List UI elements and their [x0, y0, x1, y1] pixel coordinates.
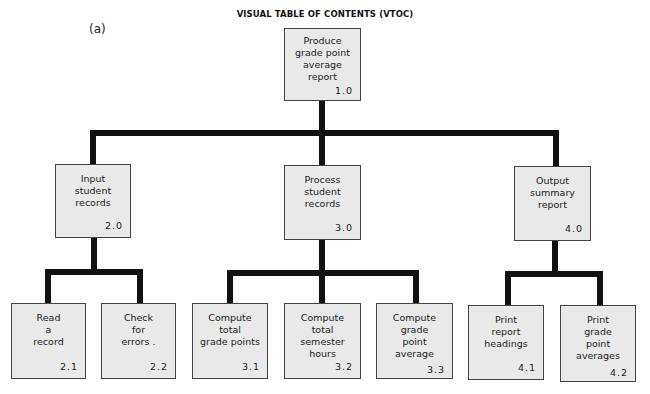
node-label: Print grade point averages — [561, 314, 635, 362]
node-number: 4.0 — [565, 223, 583, 234]
node-label: Output summary report — [515, 175, 590, 211]
node-2-0: Input student records 2.0 — [55, 164, 131, 238]
connector-2-bar — [45, 269, 143, 275]
connector-to-3-0 — [319, 130, 325, 166]
connector-4-bar — [505, 271, 603, 277]
connector-to-2-1 — [45, 269, 51, 304]
connector-to-3-2 — [319, 270, 325, 304]
node-3-2: Compute total semester hours 3.2 — [284, 303, 361, 379]
node-number: 2.1 — [60, 361, 78, 372]
node-label: Print report headings — [469, 314, 543, 350]
connector-to-2-2 — [137, 269, 143, 304]
node-3-3: Compute grade point average 3.3 — [376, 303, 453, 379]
connector-to-4-1 — [505, 271, 511, 306]
node-number: 3.3 — [427, 364, 445, 375]
node-label: Input student records — [56, 173, 130, 209]
node-3-1: Compute total grade points 3.1 — [192, 303, 268, 379]
node-label: Compute grade point average — [377, 312, 452, 360]
node-4-0: Output summary report 4.0 — [514, 166, 591, 241]
node-number: 3.2 — [335, 361, 353, 372]
connector-to-3-1 — [227, 270, 233, 304]
connector-to-4-0 — [553, 130, 559, 167]
node-number: 3.1 — [242, 361, 260, 372]
connector-to-3-3 — [413, 270, 419, 304]
node-number: 4.2 — [610, 367, 628, 378]
node-1-0: Produce grade point average report 1.0 — [284, 28, 361, 101]
node-label: Process student records — [285, 174, 360, 210]
node-4-1: Print report headings 4.1 — [468, 305, 544, 380]
node-number: 3.0 — [335, 222, 353, 233]
node-number: 2.2 — [150, 361, 168, 372]
node-3-0: Process student records 3.0 — [284, 165, 361, 240]
node-number: 2.0 — [105, 220, 123, 231]
node-4-2: Print grade point averages 4.2 — [560, 305, 636, 382]
diagram-title: VISUAL TABLE OF CONTENTS (VTOC) — [0, 9, 650, 19]
node-number: 4.1 — [518, 362, 536, 373]
node-label: Check for errors . — [102, 312, 175, 348]
connector-to-2-0 — [90, 130, 96, 165]
connector-3-0-down — [319, 239, 325, 274]
node-label: Compute total semester hours — [285, 312, 360, 360]
node-label: Read a record — [12, 312, 85, 348]
connector-2-0-down — [91, 237, 97, 273]
node-2-2: Check for errors . 2.2 — [101, 303, 176, 379]
node-2-1: Read a record 2.1 — [11, 303, 86, 379]
node-number: 1.0 — [335, 85, 353, 96]
connector-to-4-2 — [597, 271, 603, 306]
connector-4-0-down — [552, 240, 558, 275]
node-label: Produce grade point average report — [285, 35, 360, 83]
node-label: Compute total grade points — [193, 312, 267, 348]
panel-label: (a) — [89, 22, 106, 36]
